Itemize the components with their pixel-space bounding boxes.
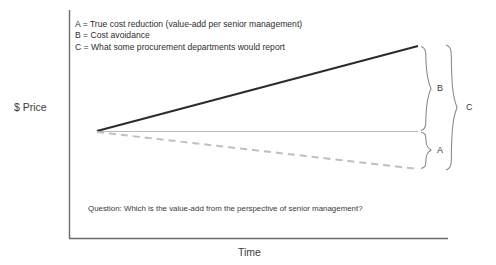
bracket-a bbox=[421, 132, 431, 169]
legend: A = True cost reduction (value-add per s… bbox=[75, 19, 302, 53]
bracket-label-b: B bbox=[437, 83, 443, 93]
bracket-c bbox=[446, 45, 457, 170]
bracket-label-c: C bbox=[466, 102, 473, 112]
reported-cost-line bbox=[97, 46, 418, 131]
diagram-canvas: $ Price Time A = True cost reduction (va… bbox=[0, 0, 496, 265]
question-text: Question: Which is the value-add from th… bbox=[88, 204, 363, 213]
legend-item-b: B = Cost avoidance bbox=[75, 30, 302, 41]
bracket-label-a: A bbox=[437, 145, 443, 155]
bracket-b bbox=[421, 47, 431, 131]
legend-item-c: C = What some procurement departments wo… bbox=[75, 42, 302, 53]
x-axis-label: Time bbox=[238, 246, 261, 258]
y-axis-label: $ Price bbox=[14, 101, 47, 113]
true-cost-line bbox=[97, 132, 418, 169]
legend-item-a: A = True cost reduction (value-add per s… bbox=[75, 19, 302, 30]
